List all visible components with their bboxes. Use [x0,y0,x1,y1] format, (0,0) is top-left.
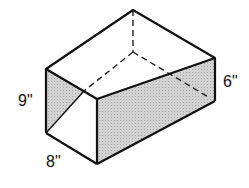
width-label: 8" [46,153,61,170]
shaded-left-triangle [46,69,84,133]
depth-label: 6" [223,73,238,90]
height-label: 9" [18,92,33,109]
prism-diagram: 9" 8" 6" [0,0,249,188]
